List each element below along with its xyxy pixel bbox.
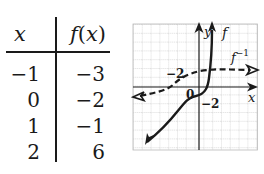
table-cell-fx: −3	[61, 62, 105, 86]
origin-label: 0	[186, 88, 194, 102]
table-cell-fx: −2	[61, 88, 105, 112]
table-cell-x: −1	[0, 62, 40, 86]
header-x: x	[14, 22, 26, 46]
table-cell-fx: 6	[61, 140, 105, 164]
table-cell-x: 2	[0, 140, 40, 164]
table-cell-fx: −1	[61, 114, 105, 138]
function-graph: y f f−1 x 0 −2 −2	[128, 18, 264, 158]
header-divider	[6, 51, 110, 53]
function-table: x f(x) −1 −3 0 −2 1 −1 2 6	[0, 0, 128, 174]
table-cell-x: 1	[0, 114, 40, 138]
header-fx: f(x)	[70, 22, 106, 46]
y-axis-label: y	[203, 24, 212, 39]
x-axis-label: x	[248, 90, 256, 105]
f-inverse-intercept-label: −2	[166, 67, 184, 81]
f-intercept-label: −2	[201, 97, 219, 111]
column-divider	[55, 17, 57, 162]
table-cell-x: 0	[0, 88, 40, 112]
